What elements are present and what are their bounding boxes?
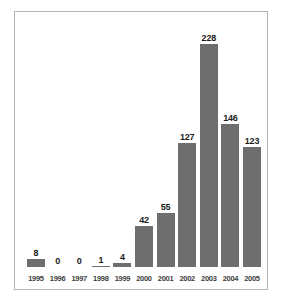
- bar-value-label: 228: [198, 33, 220, 43]
- bar-rect: [221, 124, 239, 267]
- bar-column: 422000: [133, 12, 155, 289]
- x-axis-tick-label: 1996: [46, 274, 70, 283]
- bar-value-label: 146: [219, 113, 241, 123]
- bar-value-label: 42: [133, 215, 155, 225]
- x-axis-tick-label: 1998: [89, 274, 113, 283]
- bar-column: 1272002: [176, 12, 198, 289]
- bar-column: 01996: [47, 12, 69, 289]
- bar-value-label: 4: [111, 252, 133, 262]
- bar-column: 1232005: [241, 12, 263, 289]
- bar-value-label: 55: [155, 202, 177, 212]
- x-axis-tick-label: 2003: [197, 274, 221, 283]
- bar-rect: [243, 147, 261, 267]
- bar-rect: [27, 259, 45, 267]
- bar-column: 11998: [90, 12, 112, 289]
- bar-column: 81995: [25, 12, 47, 289]
- bar-column: 2282003: [198, 12, 220, 289]
- bar-value-label: 0: [47, 256, 69, 266]
- x-axis-tick-label: 1999: [110, 274, 134, 283]
- bar-rect: [113, 263, 131, 267]
- bar-value-label: 1: [90, 255, 112, 265]
- x-axis-tick-label: 2002: [175, 274, 199, 283]
- bar-rect: [135, 226, 153, 267]
- bar-rect: [178, 143, 196, 267]
- bar-column: 41999: [111, 12, 133, 289]
- bar-chart-plot-area: 8199501996019971199841999422000552001127…: [15, 12, 267, 289]
- x-axis-tick-label: 2001: [154, 274, 178, 283]
- x-axis-tick-label: 2000: [132, 274, 156, 283]
- x-axis-tick-label: 2005: [240, 274, 264, 283]
- bar-column: 1462004: [219, 12, 241, 289]
- bar-rect: [92, 266, 110, 267]
- bar-rect: [157, 213, 175, 267]
- bar-column: 552001: [155, 12, 177, 289]
- bar-column: 01997: [68, 12, 90, 289]
- bar-rect: [200, 44, 218, 267]
- bar-value-label: 8: [25, 248, 47, 258]
- bar-value-label: 123: [241, 136, 263, 146]
- bar-value-label: 0: [68, 256, 90, 266]
- x-axis-tick-label: 1997: [67, 274, 91, 283]
- x-axis-tick-label: 1995: [24, 274, 48, 283]
- x-axis-tick-label: 2004: [218, 274, 242, 283]
- bar-value-label: 127: [176, 132, 198, 142]
